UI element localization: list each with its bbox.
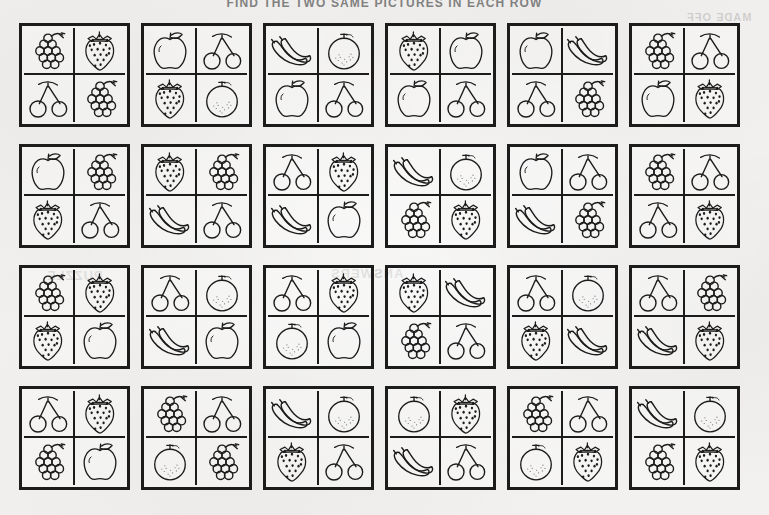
puzzle-card-r2c5[interactable] xyxy=(507,144,618,248)
fruit-cell-banana[interactable] xyxy=(146,196,197,243)
fruit-cell-cherries[interactable] xyxy=(75,196,126,243)
puzzle-card-r1c4[interactable] xyxy=(385,23,496,127)
fruit-cell-strawberry[interactable] xyxy=(563,438,614,485)
fruit-cell-apple[interactable] xyxy=(390,75,441,122)
fruit-cell-grapes[interactable] xyxy=(512,391,563,438)
fruit-cell-banana[interactable] xyxy=(563,28,614,75)
fruit-cell-grapes[interactable] xyxy=(563,75,614,122)
fruit-cell-orange[interactable] xyxy=(268,317,319,364)
fruit-cell-strawberry[interactable] xyxy=(75,28,126,75)
fruit-cell-apple[interactable] xyxy=(197,317,248,364)
puzzle-card-r3c1[interactable] xyxy=(19,265,130,369)
fruit-cell-banana[interactable] xyxy=(512,196,563,243)
fruit-cell-cherries[interactable] xyxy=(319,75,370,122)
fruit-cell-cherries[interactable] xyxy=(634,270,685,317)
fruit-cell-strawberry[interactable] xyxy=(685,196,736,243)
fruit-cell-strawberry[interactable] xyxy=(685,317,736,364)
puzzle-card-r3c6[interactable] xyxy=(629,265,740,369)
puzzle-card-r3c3[interactable] xyxy=(263,265,374,369)
fruit-cell-apple[interactable] xyxy=(268,75,319,122)
fruit-cell-strawberry[interactable] xyxy=(24,196,75,243)
puzzle-card-r3c5[interactable] xyxy=(507,265,618,369)
fruit-cell-cherries[interactable] xyxy=(197,28,248,75)
fruit-cell-orange[interactable] xyxy=(197,270,248,317)
puzzle-card-r1c6[interactable] xyxy=(629,23,740,127)
fruit-cell-apple[interactable] xyxy=(75,438,126,485)
fruit-cell-cherries[interactable] xyxy=(268,270,319,317)
fruit-cell-cherries[interactable] xyxy=(634,196,685,243)
puzzle-card-r3c4[interactable] xyxy=(385,265,496,369)
puzzle-card-r1c1[interactable] xyxy=(19,23,130,127)
fruit-cell-cherries[interactable] xyxy=(685,149,736,196)
fruit-cell-strawberry[interactable] xyxy=(319,270,370,317)
fruit-cell-grapes[interactable] xyxy=(634,28,685,75)
fruit-cell-banana[interactable] xyxy=(268,28,319,75)
puzzle-card-r4c5[interactable] xyxy=(507,386,618,490)
fruit-cell-grapes[interactable] xyxy=(24,270,75,317)
fruit-cell-orange[interactable] xyxy=(146,438,197,485)
fruit-cell-strawberry[interactable] xyxy=(146,75,197,122)
puzzle-card-r1c2[interactable] xyxy=(141,23,252,127)
fruit-cell-apple[interactable] xyxy=(319,196,370,243)
fruit-cell-cherries[interactable] xyxy=(441,317,492,364)
fruit-cell-apple[interactable] xyxy=(512,28,563,75)
fruit-cell-orange[interactable] xyxy=(319,28,370,75)
fruit-cell-cherries[interactable] xyxy=(268,149,319,196)
fruit-cell-grapes[interactable] xyxy=(634,149,685,196)
puzzle-card-r4c2[interactable] xyxy=(141,386,252,490)
puzzle-card-r3c2[interactable] xyxy=(141,265,252,369)
fruit-cell-orange[interactable] xyxy=(390,391,441,438)
fruit-cell-cherries[interactable] xyxy=(319,438,370,485)
fruit-cell-grapes[interactable] xyxy=(146,391,197,438)
puzzle-card-r2c6[interactable] xyxy=(629,144,740,248)
puzzle-card-r1c5[interactable] xyxy=(507,23,618,127)
fruit-cell-grapes[interactable] xyxy=(634,438,685,485)
fruit-cell-banana[interactable] xyxy=(390,149,441,196)
fruit-cell-cherries[interactable] xyxy=(563,149,614,196)
fruit-cell-strawberry[interactable] xyxy=(319,149,370,196)
fruit-cell-cherries[interactable] xyxy=(146,270,197,317)
fruit-cell-orange[interactable] xyxy=(441,149,492,196)
fruit-cell-grapes[interactable] xyxy=(197,438,248,485)
fruit-cell-strawberry[interactable] xyxy=(268,438,319,485)
fruit-cell-strawberry[interactable] xyxy=(75,270,126,317)
fruit-cell-orange[interactable] xyxy=(685,391,736,438)
fruit-cell-orange[interactable] xyxy=(197,75,248,122)
puzzle-card-r4c4[interactable] xyxy=(385,386,496,490)
puzzle-card-r2c4[interactable] xyxy=(385,144,496,248)
fruit-cell-apple[interactable] xyxy=(441,28,492,75)
fruit-cell-banana[interactable] xyxy=(441,270,492,317)
fruit-cell-apple[interactable] xyxy=(512,149,563,196)
fruit-cell-banana[interactable] xyxy=(634,317,685,364)
fruit-cell-banana[interactable] xyxy=(390,438,441,485)
puzzle-card-r4c1[interactable] xyxy=(19,386,130,490)
fruit-cell-orange[interactable] xyxy=(563,270,614,317)
fruit-cell-grapes[interactable] xyxy=(24,28,75,75)
puzzle-card-r2c1[interactable] xyxy=(19,144,130,248)
fruit-cell-cherries[interactable] xyxy=(24,75,75,122)
fruit-cell-cherries[interactable] xyxy=(441,75,492,122)
fruit-cell-strawberry[interactable] xyxy=(390,28,441,75)
fruit-cell-cherries[interactable] xyxy=(441,438,492,485)
fruit-cell-strawberry[interactable] xyxy=(685,75,736,122)
fruit-cell-strawberry[interactable] xyxy=(441,196,492,243)
fruit-cell-strawberry[interactable] xyxy=(390,270,441,317)
fruit-cell-apple[interactable] xyxy=(75,317,126,364)
fruit-cell-strawberry[interactable] xyxy=(75,391,126,438)
puzzle-card-r1c3[interactable] xyxy=(263,23,374,127)
puzzle-card-r2c2[interactable] xyxy=(141,144,252,248)
fruit-cell-strawberry[interactable] xyxy=(685,438,736,485)
fruit-cell-banana[interactable] xyxy=(268,391,319,438)
fruit-cell-cherries[interactable] xyxy=(24,391,75,438)
fruit-cell-grapes[interactable] xyxy=(75,75,126,122)
fruit-cell-grapes[interactable] xyxy=(197,149,248,196)
fruit-cell-apple[interactable] xyxy=(319,317,370,364)
fruit-cell-grapes[interactable] xyxy=(563,196,614,243)
fruit-cell-cherries[interactable] xyxy=(197,391,248,438)
fruit-cell-banana[interactable] xyxy=(634,391,685,438)
fruit-cell-grapes[interactable] xyxy=(75,149,126,196)
fruit-cell-cherries[interactable] xyxy=(685,28,736,75)
puzzle-card-r2c3[interactable] xyxy=(263,144,374,248)
fruit-cell-apple[interactable] xyxy=(146,28,197,75)
fruit-cell-grapes[interactable] xyxy=(390,317,441,364)
